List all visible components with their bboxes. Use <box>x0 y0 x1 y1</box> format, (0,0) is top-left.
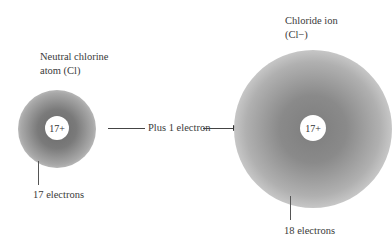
chloride-ion-electron-count: 18 electrons <box>284 224 335 237</box>
neutral-atom-nucleus: 17+ <box>45 116 69 140</box>
arrow-line-right <box>203 128 235 129</box>
chloride-ion-pointer-line <box>290 196 291 220</box>
arrow-label: Plus 1 electron <box>148 121 210 134</box>
neutral-atom-title-line1: Neutral chlorine <box>40 50 109 63</box>
arrow-line-left <box>108 128 145 129</box>
neutral-atom-pointer-line <box>38 161 39 185</box>
neutral-atom-title-line2: atom (Cl) <box>40 64 81 77</box>
chloride-ion-nucleus: 17+ <box>300 115 326 141</box>
chloride-ion-title-line1: Chloride ion <box>285 14 338 27</box>
chloride-ion-title-line2: (Cl−) <box>285 28 308 41</box>
neutral-atom-electron-count: 17 electrons <box>33 188 84 201</box>
